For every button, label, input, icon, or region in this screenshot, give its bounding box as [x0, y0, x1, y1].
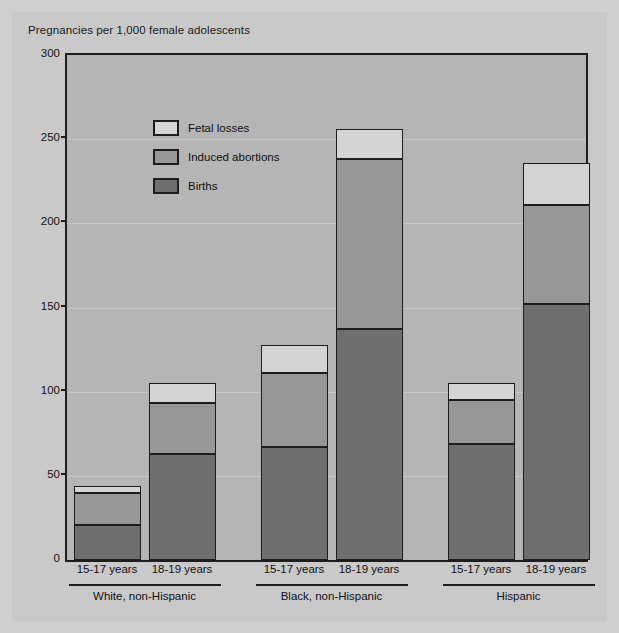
bar-segment-births — [261, 447, 328, 560]
bar-segment-induced-abortions — [336, 159, 403, 329]
bar-segment-fetal-losses — [261, 345, 328, 374]
y-axis-tick-label: 250 — [41, 131, 60, 143]
bar-stack — [448, 383, 515, 560]
bar-segment-fetal-losses — [149, 383, 216, 403]
legend-item: Fetal losses — [153, 113, 279, 142]
y-axis-tick-label: 0 — [54, 552, 60, 564]
bar-segment-births — [523, 304, 590, 560]
x-axis: 15-17 years18-19 years15-17 years18-19 y… — [65, 561, 588, 619]
legend-label: Induced abortions — [188, 151, 279, 163]
legend-item: Induced abortions — [153, 142, 279, 171]
x-axis-tick-label: 18-19 years — [339, 563, 400, 575]
y-axis-tick-label: 200 — [41, 215, 60, 227]
bar-segment-induced-abortions — [523, 205, 590, 304]
bar-segment-induced-abortions — [74, 493, 141, 525]
bar-segment-births — [448, 444, 515, 560]
bar-segment-fetal-losses — [74, 486, 141, 493]
y-axis-tick-label: 300 — [41, 47, 60, 59]
group-rule — [69, 584, 221, 586]
x-axis-tick-label: 15-17 years — [451, 563, 512, 575]
y-axis-tick-label: 100 — [41, 384, 60, 396]
bar-segment-births — [149, 454, 216, 560]
bar-segment-fetal-losses — [336, 129, 403, 159]
chart-title: Pregnancies per 1,000 female adolescents — [28, 24, 250, 36]
group-rule — [256, 584, 408, 586]
legend-swatch — [153, 149, 179, 165]
group-rule — [443, 584, 595, 586]
bar-segment-induced-abortions — [448, 400, 515, 444]
bar-segment-births — [74, 525, 141, 560]
y-axis: 050100150200250300 — [12, 53, 60, 558]
legend-item: Births — [153, 171, 279, 200]
bar-segment-induced-abortions — [149, 403, 216, 454]
bar-segment-fetal-losses — [448, 383, 515, 400]
x-axis-tick-label: 15-17 years — [77, 563, 138, 575]
figure-panel: Pregnancies per 1,000 female adolescents… — [12, 12, 607, 621]
x-axis-group-label: White, non-Hispanic — [93, 590, 196, 602]
bar-stack — [336, 129, 403, 560]
x-axis-group-label: Black, non-Hispanic — [281, 590, 383, 602]
x-axis-tick-label: 15-17 years — [264, 563, 325, 575]
bar-segment-induced-abortions — [261, 373, 328, 447]
bar-stack — [149, 383, 216, 560]
legend-swatch — [153, 178, 179, 194]
bar-stack — [74, 486, 141, 560]
legend-label: Births — [188, 180, 217, 192]
gridline — [67, 139, 586, 140]
y-axis-tick-label: 50 — [47, 468, 60, 480]
bar-segment-births — [336, 329, 403, 560]
bar-stack — [523, 163, 590, 560]
bar-stack — [261, 345, 328, 560]
x-axis-tick-label: 18-19 years — [526, 563, 587, 575]
bar-segment-fetal-losses — [523, 163, 590, 205]
x-axis-tick-label: 18-19 years — [152, 563, 213, 575]
gridline — [67, 308, 586, 309]
legend-label: Fetal losses — [188, 122, 249, 134]
legend-swatch — [153, 120, 179, 136]
plot-area: Fetal lossesInduced abortionsBirths — [65, 53, 588, 562]
chart-legend: Fetal lossesInduced abortionsBirths — [153, 113, 279, 200]
gridline — [67, 223, 586, 224]
x-axis-group-label: Hispanic — [496, 590, 540, 602]
y-axis-tick-label: 150 — [41, 300, 60, 312]
